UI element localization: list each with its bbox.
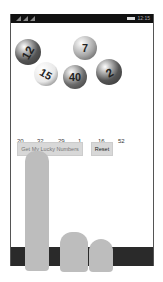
ball-number: 15 [38, 66, 54, 82]
ball-number: 12 [19, 43, 37, 61]
lottery-ball: 12 [15, 39, 41, 65]
lottery-ball: 15 [34, 62, 58, 86]
finger-overlay [89, 239, 113, 272]
ball-number: 2 [103, 65, 115, 80]
phone-screen: 12:15 12715402 20 32 29 1 16 52 Get My L… [10, 14, 154, 266]
lucky-number: 52 [118, 138, 125, 144]
lottery-ball: 2 [96, 59, 122, 85]
wifi-icon [30, 16, 35, 21]
finger-overlay [25, 151, 49, 271]
reset-button[interactable]: Reset [91, 142, 113, 156]
status-bar: 12:15 [11, 14, 153, 23]
signal-icon [16, 16, 21, 21]
data-icon [23, 16, 28, 21]
finger-overlay [60, 232, 88, 272]
status-time: 12:15 [137, 15, 150, 21]
status-icons [16, 16, 35, 21]
ball-number: 7 [82, 42, 88, 54]
ball-number: 40 [69, 71, 81, 83]
battery-icon [127, 17, 135, 20]
lottery-ball: 7 [73, 36, 97, 60]
lottery-ball: 40 [63, 65, 87, 89]
